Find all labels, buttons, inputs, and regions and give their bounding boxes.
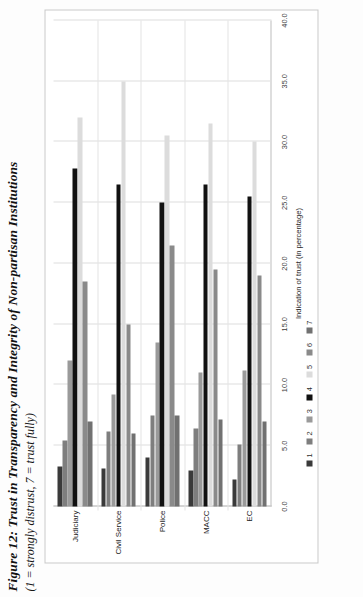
bar	[116, 184, 120, 506]
legend-item[interactable]: 2	[304, 431, 313, 444]
legend-swatch	[306, 327, 312, 333]
legend-swatch	[306, 372, 312, 378]
x-tick-label: 25.0	[279, 195, 288, 209]
legend-label: 5	[304, 364, 313, 368]
category-group: Police	[140, 20, 184, 506]
category-label: Civil Service	[114, 510, 123, 558]
bar	[111, 394, 115, 506]
x-tick-label: 20.0	[279, 256, 288, 270]
bar	[257, 275, 261, 506]
bar	[247, 196, 251, 506]
category-group: MACC	[184, 20, 228, 506]
bar	[67, 360, 71, 506]
legend-item[interactable]: 1	[304, 453, 313, 466]
chart-legend: 1234567	[304, 320, 313, 466]
category-label: EC	[245, 510, 254, 558]
legend-item[interactable]: 6	[304, 342, 313, 355]
bar	[101, 468, 105, 506]
legend-swatch	[306, 349, 312, 355]
chart-frame: Indication of trust (in percentage) 0.05…	[44, 9, 318, 563]
bar	[57, 466, 61, 506]
legend-item[interactable]: 3	[304, 409, 313, 422]
figure-title: Figure 12: Trust in Transparency and Int…	[4, 31, 20, 591]
legend-label: 2	[304, 431, 313, 435]
bar	[145, 457, 149, 506]
x-tick-label: 10.0	[279, 377, 288, 391]
category-label: Judiciary	[70, 510, 79, 558]
figure-subtitle: (1 = strongly distrust, 7 = trust fully)	[22, 31, 37, 591]
legend-label: 7	[304, 320, 313, 324]
rotated-figure-canvas: Figure 12: Trust in Transparency and Int…	[0, 0, 363, 597]
legend-swatch	[306, 438, 312, 444]
x-tick-label: 5.0	[279, 440, 288, 450]
x-tick-label: 15.0	[279, 317, 288, 331]
bar	[106, 431, 110, 506]
legend-item[interactable]: 7	[304, 320, 313, 333]
legend-swatch	[306, 460, 312, 466]
legend-label: 3	[304, 409, 313, 413]
legend-item[interactable]: 4	[304, 387, 313, 400]
bar	[218, 419, 222, 506]
bar	[174, 415, 178, 506]
bar	[188, 470, 192, 506]
legend-swatch	[306, 394, 312, 400]
x-tick-label: 0.0	[279, 501, 288, 511]
x-tick-label: 40.0	[279, 13, 288, 27]
figure-title-block: Figure 12: Trust in Transparency and Int…	[4, 31, 37, 591]
group-separator	[140, 20, 141, 510]
bar	[159, 202, 163, 506]
bar	[150, 415, 154, 506]
x-tick-label: 30.0	[279, 134, 288, 148]
legend-label: 6	[304, 342, 313, 346]
bar	[164, 135, 168, 506]
bar	[252, 142, 256, 507]
bar	[213, 269, 217, 506]
bar	[232, 479, 236, 506]
bar	[242, 370, 246, 506]
bar	[82, 281, 86, 506]
bar	[87, 421, 91, 506]
plot-area: Indication of trust (in percentage) 0.05…	[53, 20, 271, 506]
bar	[198, 372, 202, 506]
category-group: Judiciary	[53, 20, 97, 506]
category-group: EC	[227, 20, 271, 506]
bar	[169, 245, 173, 506]
legend-item[interactable]: 5	[304, 364, 313, 377]
legend-label: 1	[304, 453, 313, 457]
group-separator	[227, 20, 228, 510]
bar	[193, 428, 197, 506]
category-label: MACC	[201, 510, 210, 558]
x-tick-label: 35.0	[279, 74, 288, 88]
bar	[262, 421, 266, 506]
group-separator	[184, 20, 185, 510]
x-axis-title: Indication of trust (in percentage)	[293, 20, 302, 506]
category-label: Police	[157, 510, 166, 558]
figure-page: Figure 12: Trust in Transparency and Int…	[0, 0, 363, 597]
bar	[155, 342, 159, 506]
bar	[62, 440, 66, 506]
legend-swatch	[306, 416, 312, 422]
bar	[208, 123, 212, 506]
bar	[237, 444, 241, 506]
group-separator	[97, 20, 98, 510]
bar	[121, 81, 125, 506]
bar	[77, 117, 81, 506]
bar	[131, 433, 135, 506]
legend-label: 4	[304, 387, 313, 391]
bar	[126, 324, 130, 506]
category-group: Civil Service	[97, 20, 141, 506]
bar	[72, 168, 76, 506]
bar	[203, 184, 207, 506]
